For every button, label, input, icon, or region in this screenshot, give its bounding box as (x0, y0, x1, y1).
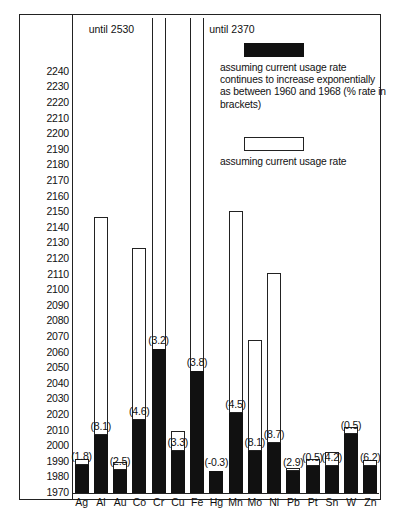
y-axis-labels: 2240223022202210220021902180217021602150… (20, 15, 72, 499)
y-axis-tick-label: 1970 (46, 487, 69, 498)
y-axis-tick-label: 2060 (46, 346, 69, 357)
bar-solid-sn (325, 466, 339, 493)
bar-solid-fe (190, 371, 204, 493)
bar-offscale-outline-fe (190, 18, 204, 371)
chart-root: 2240223022202210220021902180217021602150… (0, 0, 399, 531)
legend-hollow-swatch-icon (244, 137, 304, 151)
legend-entry-1-label: assuming current usage rate continues to… (220, 62, 388, 111)
y-axis-tick-label: 2050 (46, 362, 69, 373)
bar-au (113, 16, 127, 493)
rate-label-zn: (6.2) (350, 452, 390, 463)
bar-hollow-ni (267, 273, 281, 443)
y-axis-tick-label: 2150 (46, 206, 69, 217)
y-axis-tick-label: 2120 (46, 253, 69, 264)
legend-entry-2-label: assuming current usage rate (220, 156, 388, 168)
y-axis-tick-label: 2010 (46, 424, 69, 435)
y-axis-tick-label: 2140 (46, 222, 69, 233)
chart-legend: assuming current usage rate continues to… (220, 43, 388, 168)
y-axis-tick-label: 2110 (47, 268, 69, 279)
bar-solid-zn (363, 466, 377, 493)
chart-frame: 2240223022202210220021902180217021602150… (19, 14, 381, 500)
x-axis-baseline (72, 493, 379, 494)
bar-solid-co (132, 420, 146, 493)
y-axis-tick-label: 2070 (46, 331, 69, 342)
y-axis-tick-label: 1980 (46, 471, 69, 482)
y-axis-tick-label: 2160 (46, 190, 69, 201)
bar-cu (171, 16, 185, 493)
y-axis-tick-label: 2230 (46, 81, 69, 92)
y-axis-tick-label: 2170 (46, 175, 69, 186)
bar-hollow-co (132, 248, 146, 420)
bar-solid-hg (209, 471, 223, 493)
bar-hollow-mn (229, 211, 243, 414)
bar-solid-cr (152, 349, 166, 493)
y-axis-tick-label: 2000 (46, 440, 69, 451)
bar-cr (152, 16, 166, 493)
x-axis-label-zn: Zn (357, 497, 383, 508)
y-axis-tick-label: 2200 (46, 128, 69, 139)
y-axis-tick-label: 2210 (46, 112, 69, 123)
y-axis-tick-label: 2100 (46, 284, 69, 295)
bar-solid-ag (75, 465, 89, 493)
bar-solid-pb (286, 471, 300, 493)
y-axis-tick-label: 2180 (46, 159, 69, 170)
until-note-fe: until 2370 (209, 24, 255, 35)
bar-solid-mo (248, 451, 262, 493)
y-axis-tick-label: 2080 (46, 315, 69, 326)
bar-solid-cu (171, 451, 185, 493)
y-axis-tick-label: 2130 (46, 237, 69, 248)
bar-solid-pt (306, 466, 320, 493)
y-axis-tick-label: 2090 (46, 300, 69, 311)
y-axis-tick-label: 2040 (46, 378, 69, 389)
bar-hollow-al (94, 217, 108, 435)
bar-fe (190, 16, 204, 493)
bar-offscale-outline-cr (152, 18, 166, 349)
legend-solid-swatch-icon (244, 43, 304, 57)
y-axis-tick-label: 2220 (46, 97, 69, 108)
bar-solid-mn (229, 413, 243, 493)
y-axis-tick-label: 2020 (46, 409, 69, 420)
y-axis-tick-label: 2030 (46, 393, 69, 404)
y-axis-tick-label: 2240 (46, 66, 69, 77)
y-axis-tick-label: 2190 (46, 144, 69, 155)
until-note-cr: until 2530 (89, 24, 135, 35)
bar-co (132, 16, 146, 493)
bar-solid-au (113, 470, 127, 493)
